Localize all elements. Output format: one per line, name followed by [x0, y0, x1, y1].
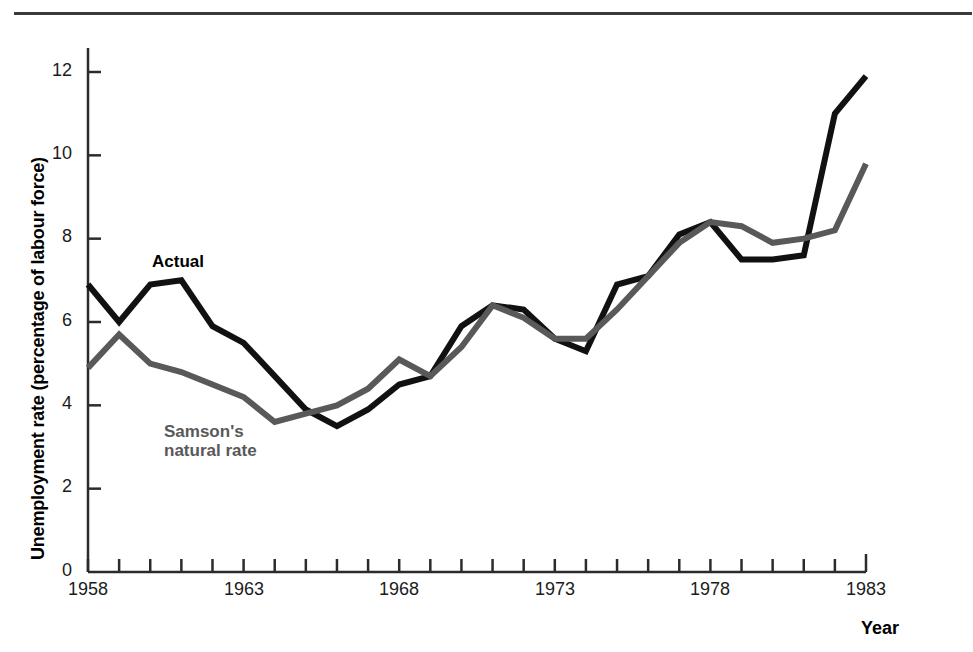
- x-tick-label-1968: 1968: [362, 579, 436, 600]
- data-series-group: [88, 76, 866, 426]
- series-label-natural-rate: Samson'snatural rate: [164, 422, 257, 460]
- y-axis-title: Unemployment rate (percentage of labour …: [28, 157, 49, 560]
- y-tick-label-12: 12: [26, 60, 72, 81]
- x-tick-label-1958: 1958: [51, 579, 125, 600]
- series-label-actual: Actual: [152, 252, 204, 271]
- series-line-natural-rate: [88, 164, 866, 422]
- chart-page: 12 10 8 6 4 2 0 1958 1963 1968 1973 1978…: [0, 0, 973, 652]
- x-tick-label-1963: 1963: [207, 579, 281, 600]
- x-tick-label-1983: 1983: [829, 579, 903, 600]
- x-axis-title: Year: [861, 618, 899, 639]
- series-line-actual: [88, 76, 866, 426]
- series-label-natural-line1: Samson's: [164, 422, 244, 441]
- series-label-natural-line2: natural rate: [164, 441, 257, 460]
- x-tick-label-1973: 1973: [518, 579, 592, 600]
- x-tick-label-1978: 1978: [673, 579, 747, 600]
- y-tick-label-0: 0: [26, 560, 72, 581]
- chart-plot-area: 12 10 8 6 4 2 0 1958 1963 1968 1973 1978…: [0, 0, 973, 652]
- unemployment-line-chart: [0, 0, 973, 652]
